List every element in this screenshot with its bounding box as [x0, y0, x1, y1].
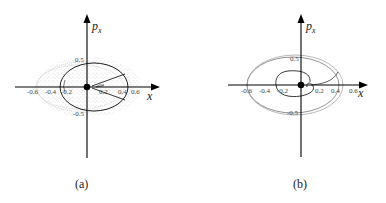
- x-axis-label: x: [357, 86, 364, 100]
- xtick: -0.6: [27, 88, 39, 96]
- xtick: -0.4: [259, 87, 271, 95]
- ytick: 0.5: [75, 56, 84, 64]
- panel-a: -0.6 -0.4 -0.2 0.2 0.4 0.6 0.5 -0.5 px x…: [0, 0, 193, 203]
- xtick: -0.4: [45, 88, 57, 96]
- y-axis-label: px: [305, 19, 316, 35]
- y-axis-label: px: [91, 19, 102, 35]
- caption-b: (b): [293, 177, 307, 192]
- fixed-point-marker: [84, 84, 91, 91]
- ytick: -0.5: [73, 110, 85, 118]
- ytick: 0.5: [290, 55, 299, 63]
- x-arrow-icon: [151, 84, 160, 91]
- phase-plot-b: -0.6 -0.4 -0.2 0.2 0.4 0.6 0.5 -0.5 px x: [193, 0, 386, 203]
- x-axis-label: x: [146, 89, 153, 103]
- xtick: 0.6: [349, 87, 358, 95]
- xtick: 0.4: [331, 87, 340, 95]
- xtick: 0.2: [315, 87, 324, 95]
- xtick: 0.6: [131, 88, 140, 96]
- y-arrow-icon: [84, 14, 91, 23]
- xtick: -0.2: [61, 88, 73, 96]
- xtick: 0.4: [118, 88, 127, 96]
- caption-a: (a): [75, 177, 88, 192]
- y-arrow-icon: [298, 14, 305, 23]
- panel-b: -0.6 -0.4 -0.2 0.2 0.4 0.6 0.5 -0.5 px x…: [193, 0, 386, 203]
- xtick: 0.2: [99, 88, 108, 96]
- xtick: -0.2: [277, 87, 289, 95]
- ytick: -0.5: [287, 109, 299, 117]
- xtick: -0.6: [241, 87, 253, 95]
- fixed-point-marker: [298, 82, 305, 89]
- phase-plot-a: -0.6 -0.4 -0.2 0.2 0.4 0.6 0.5 -0.5 px x: [0, 0, 193, 203]
